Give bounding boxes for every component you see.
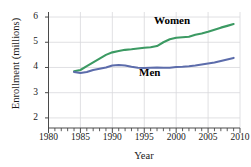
chart-figure: Enrollment (millions) Year 1980198519901… (0, 0, 251, 167)
series-label-men: Men (139, 66, 160, 78)
series-label-women: Women (154, 14, 190, 26)
plot-canvas (0, 0, 251, 167)
